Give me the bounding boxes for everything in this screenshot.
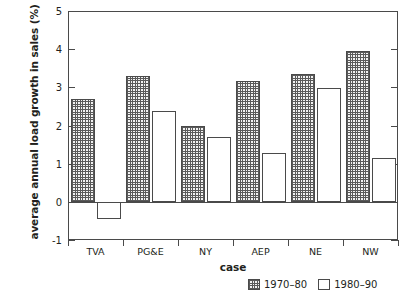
x-tick-label-tva: TVA	[66, 246, 126, 257]
y-tick-3	[68, 87, 75, 88]
bar-aep-series-2	[262, 153, 286, 201]
bar-nw-series-1	[346, 51, 370, 202]
bar-tva-series-2	[97, 202, 121, 219]
y-tick--1	[68, 240, 75, 241]
bar-chart: average annual load growth in sales (%) …	[0, 0, 411, 299]
x-tick-label-pg-e: PG&E	[121, 246, 181, 257]
bar-nw-series-2	[372, 158, 396, 202]
y-tick-label-2: 2	[32, 120, 62, 131]
x-tick-end	[398, 240, 399, 246]
y-tick-3	[391, 87, 398, 88]
y-tick-label-3: 3	[32, 82, 62, 93]
zero-line	[68, 202, 398, 203]
x-axis-title: case	[68, 261, 398, 273]
x-tick-label-ny: NY	[176, 246, 236, 257]
y-tick-5	[68, 11, 75, 12]
legend-item-1970-80: 1970–80	[248, 279, 307, 290]
bar-ne-series-1	[291, 74, 315, 202]
bar-ny-series-1	[181, 126, 205, 202]
empty-swatch-icon	[318, 279, 330, 290]
y-tick-5	[391, 11, 398, 12]
bar-aep-series-1	[236, 81, 260, 202]
y-tick-4	[391, 49, 398, 50]
hatched-swatch-icon	[248, 279, 260, 290]
y-tick-label-4: 4	[32, 44, 62, 55]
bar-tva-series-1	[71, 99, 95, 202]
y-tick-label-1: 1	[32, 158, 62, 169]
y-tick-label-0: 0	[32, 196, 62, 207]
x-tick-label-aep: AEP	[231, 246, 291, 257]
legend-label-1980-90: 1980–90	[334, 279, 377, 290]
legend-label-1970-80: 1970–80	[264, 279, 307, 290]
legend-item-1980-90: 1980–90	[318, 279, 377, 290]
y-tick-label--1: -1	[32, 235, 62, 246]
x-tick-label-ne: NE	[286, 246, 346, 257]
legend: 1970–80 1980–90	[248, 279, 377, 290]
y-tick--1	[391, 240, 398, 241]
x-tick-label-nw: NW	[341, 246, 401, 257]
bar-ny-series-2	[207, 137, 231, 202]
y-tick-label-5: 5	[32, 6, 62, 17]
y-tick-4	[68, 49, 75, 50]
bar-pg-e-series-2	[152, 111, 176, 202]
y-tick-2	[391, 126, 398, 127]
bar-pg-e-series-1	[126, 76, 150, 202]
bar-ne-series-2	[317, 88, 341, 201]
